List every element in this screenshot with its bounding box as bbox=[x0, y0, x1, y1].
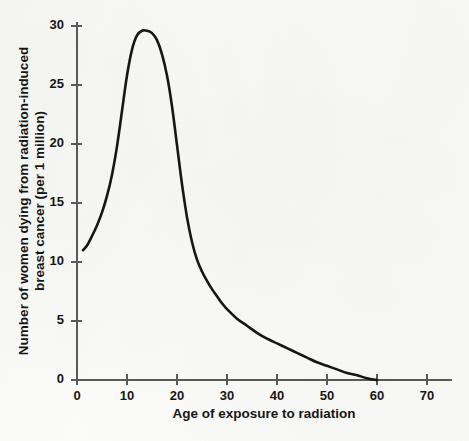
x-tick-label-70: 70 bbox=[420, 388, 434, 403]
x-tick-label-0: 0 bbox=[73, 388, 80, 403]
data-series-line bbox=[83, 30, 377, 380]
y-tick-label-25: 25 bbox=[50, 76, 64, 91]
y-tick-label-10: 10 bbox=[50, 253, 64, 268]
x-axis-title: Age of exposure to radiation bbox=[172, 406, 355, 421]
y-axis-title-line1: Number of women dying from radiation-ind… bbox=[16, 47, 31, 355]
y-tick-label-20: 20 bbox=[50, 135, 64, 150]
chart-figure: 0 5 10 15 20 25 30 0 10 20 30 40 50 60 7… bbox=[0, 0, 469, 441]
x-tick-label-10: 10 bbox=[120, 388, 134, 403]
y-axis-title-line2: breast cancer (per 1 million) bbox=[32, 111, 47, 291]
y-tick-label-30: 30 bbox=[50, 17, 64, 32]
x-tick-label-60: 60 bbox=[370, 388, 384, 403]
x-tick-label-30: 30 bbox=[220, 388, 234, 403]
x-tick-label-50: 50 bbox=[320, 388, 334, 403]
x-tick-label-40: 40 bbox=[270, 388, 284, 403]
line-chart-plot: 0 5 10 15 20 25 30 0 10 20 30 40 50 60 7… bbox=[0, 0, 469, 441]
y-tick-label-5: 5 bbox=[57, 312, 64, 327]
x-tick-label-20: 20 bbox=[170, 388, 184, 403]
y-tick-label-15: 15 bbox=[50, 194, 64, 209]
y-tick-label-0: 0 bbox=[57, 371, 64, 386]
